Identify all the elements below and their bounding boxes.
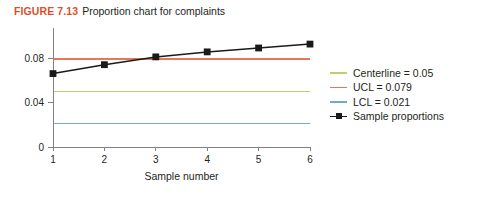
y-tick-label: 0 (38, 142, 44, 153)
legend-item-label: LCL = 0.021 (353, 96, 410, 108)
data-point-marker (152, 53, 159, 60)
legend-swatch-icon (330, 96, 347, 107)
y-tick-label: 0.04 (25, 97, 45, 108)
legend-item: UCL = 0.079 (330, 81, 475, 94)
x-tick-label: 3 (153, 154, 159, 165)
data-point-marker (204, 48, 211, 55)
legend-marker-square-icon (336, 113, 342, 119)
data-point-marker (307, 41, 314, 48)
data-point-marker (101, 61, 108, 68)
legend-swatch-icon (330, 111, 347, 122)
legend-item: Centerline = 0.05 (330, 66, 475, 79)
data-point-marker (50, 70, 57, 77)
x-tick-label: 5 (256, 154, 262, 165)
legend-swatch-icon (330, 82, 347, 93)
legend-swatch-icon (330, 67, 347, 78)
x-tick-label: 6 (307, 154, 313, 165)
legend-item-label: Sample proportions (353, 110, 444, 122)
legend-item-label: UCL = 0.079 (353, 81, 412, 93)
legend-item: LCL = 0.021 (330, 95, 475, 108)
x-tick-label: 4 (204, 154, 210, 165)
figure-container: FIGURE 7.13Proportion chart for complain… (0, 0, 479, 204)
data-point-marker (255, 45, 262, 52)
legend-item: Sample proportions (330, 110, 475, 123)
x-axis-title: Sample number (144, 170, 219, 182)
legend-item-label: Centerline = 0.05 (353, 67, 433, 79)
x-tick-label: 2 (102, 154, 108, 165)
chart-legend: Centerline = 0.05UCL = 0.079LCL = 0.021S… (330, 66, 475, 124)
x-tick-label: 1 (50, 154, 56, 165)
y-tick-label: 0.08 (25, 53, 45, 64)
